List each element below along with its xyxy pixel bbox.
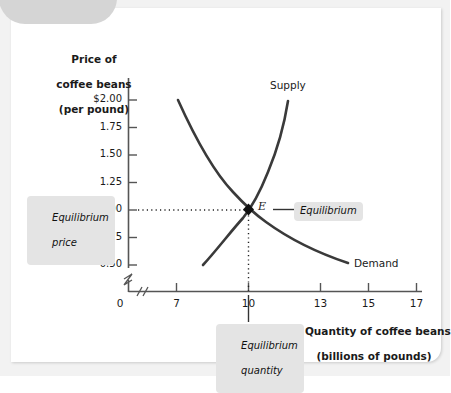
equilibrium-price-callout-line2: price [52, 237, 77, 248]
y-tick-label-1.25: 1.25 [72, 176, 122, 188]
demand-curve-label: Demand [354, 257, 399, 269]
equilibrium-callout: Equilibrium [294, 202, 363, 221]
y-axis-title-line2: coffee beans [56, 78, 131, 90]
y-tick-label-2.00: $2.00 [72, 93, 122, 105]
x-tick-label-13: 13 [308, 297, 333, 309]
x-axis-title: Quantity of coffee beans (billions of po… [283, 313, 443, 375]
y-tick-label-1.50: 1.50 [72, 148, 122, 160]
equilibrium-price-callout: Equilibrium price [27, 196, 115, 265]
x-axis-ticks [177, 283, 417, 292]
x-tick-label-15: 15 [356, 297, 381, 309]
y-axis-title: Price of coffee beans (per pound) [33, 41, 133, 128]
supply-curve-label: Supply [270, 79, 306, 91]
equilibrium-quantity-callout-line1: Equilibrium [241, 340, 298, 351]
x-axis-title-line1: Quantity of coffee beans [305, 325, 451, 337]
x-tick-label-0: 0 [108, 297, 132, 309]
x-tick-label-10: 10 [236, 297, 261, 309]
equilibrium-quantity-callout-line2: quantity [241, 365, 283, 376]
equilibrium-point-label: E [258, 201, 266, 214]
y-tick-label-1.75: 1.75 [72, 121, 122, 133]
equilibrium-price-callout-line1: Equilibrium [52, 212, 109, 223]
x-tick-label-7: 7 [164, 297, 189, 309]
x-axis-title-line2: (billions of pounds) [316, 350, 431, 362]
equilibrium-quantity-callout: Equilibrium quantity [216, 324, 304, 393]
x-tick-label-17: 17 [404, 297, 429, 309]
supply-curve [203, 101, 288, 265]
y-axis-title-line1: Price of [71, 53, 116, 65]
